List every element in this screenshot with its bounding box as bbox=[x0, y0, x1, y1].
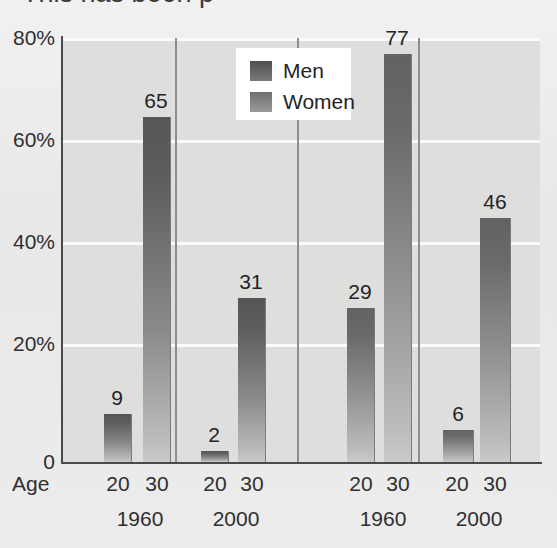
bar-label-women-1960-age30: 77 bbox=[372, 26, 422, 50]
x-tick-women-2000-age30: 30 bbox=[470, 472, 520, 496]
bar-label-women-1960-age20: 29 bbox=[335, 280, 385, 304]
bar-women-2000-age30 bbox=[480, 218, 511, 462]
x-tick-men-2000-age30: 30 bbox=[227, 472, 277, 496]
y-tick-20: 20% bbox=[13, 332, 55, 356]
bar-label-men-1960-age20: 9 bbox=[92, 386, 142, 410]
bar-women-1960-age20 bbox=[347, 308, 375, 462]
legend: Men Women bbox=[236, 48, 351, 120]
bar-men-1960-age20 bbox=[104, 414, 132, 462]
x-tick-men-1960-age30: 30 bbox=[132, 472, 182, 496]
y-tick-60: 60% bbox=[13, 128, 55, 152]
bar-label-men-2000-age30: 31 bbox=[226, 270, 276, 294]
x-axis-age-label: Age bbox=[12, 472, 49, 496]
legend-item-men: Men bbox=[250, 55, 351, 86]
chart-title-clipped: This has been p bbox=[0, 0, 557, 13]
x-group-men-1960: 1960 bbox=[105, 507, 175, 531]
y-tick-0: 0 bbox=[43, 450, 55, 474]
bar-men-1960-age30 bbox=[143, 117, 171, 462]
legend-swatch-men-icon bbox=[250, 61, 272, 81]
legend-item-women: Women bbox=[250, 86, 351, 117]
bar-women-1960-age30 bbox=[384, 54, 412, 462]
bar-men-2000-age20 bbox=[201, 451, 229, 462]
gridline-40 bbox=[62, 242, 540, 245]
bar-label-women-2000-age30: 46 bbox=[470, 190, 520, 214]
group-separator-3 bbox=[418, 38, 420, 462]
gridline-60 bbox=[62, 140, 540, 143]
gridline-20 bbox=[62, 344, 540, 347]
x-axis-line bbox=[61, 462, 542, 464]
legend-swatch-women-icon bbox=[250, 92, 272, 112]
x-group-women-2000: 2000 bbox=[444, 507, 514, 531]
legend-label-women: Women bbox=[283, 91, 355, 112]
bar-men-2000-age30 bbox=[238, 298, 266, 462]
x-tick-women-1960-age30: 30 bbox=[373, 472, 423, 496]
gridline-80 bbox=[62, 38, 540, 41]
bar-label-men-1960-age30: 65 bbox=[131, 89, 181, 113]
legend-label-men: Men bbox=[283, 60, 324, 81]
x-group-women-1960: 1960 bbox=[348, 507, 418, 531]
y-axis-ticks: 80% 60% 40% 20% 0 bbox=[0, 0, 55, 548]
y-axis-line bbox=[61, 36, 63, 464]
bar-women-2000-age20 bbox=[443, 430, 474, 462]
y-tick-40: 40% bbox=[13, 230, 55, 254]
x-group-men-2000: 2000 bbox=[201, 507, 271, 531]
chart-page: This has been p 80% 60% 40% 20% 0 9 65 2… bbox=[0, 0, 557, 548]
bar-label-men-2000-age20: 2 bbox=[189, 423, 239, 447]
bar-label-women-2000-age20: 6 bbox=[433, 402, 483, 426]
y-tick-80: 80% bbox=[13, 26, 55, 50]
